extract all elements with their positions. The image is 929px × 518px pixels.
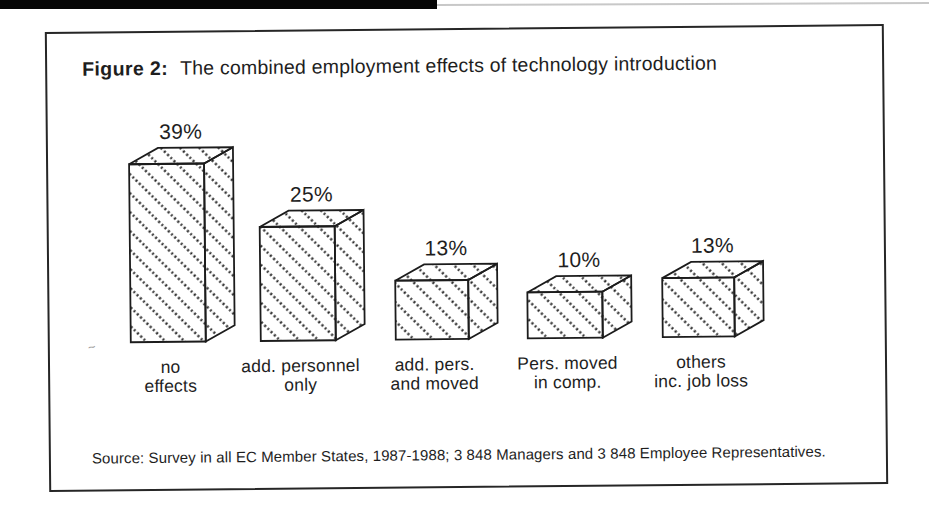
bar-value-label: 10% — [534, 247, 624, 272]
scanned-page: Figure 2:The combined employment effects… — [0, 0, 929, 518]
bar-others-inc-job-loss — [662, 261, 764, 337]
scan-edge-bar — [0, 0, 437, 9]
bar-category-label: add. personnel only — [225, 356, 375, 395]
bar-category-label: others inc. job loss — [626, 352, 776, 391]
bar-category-label: Pers. moved in comp. — [492, 353, 642, 392]
figure-frame: Figure 2:The combined employment effects… — [45, 24, 888, 492]
bar-no-effects — [129, 147, 235, 342]
bar-category-label: no effects — [95, 357, 245, 396]
bar-value-label: 13% — [667, 233, 757, 258]
bar-add-personnel-only — [260, 210, 365, 341]
bar-pers-moved-in-comp — [527, 275, 632, 338]
bar-value-label: 13% — [401, 236, 491, 261]
bar-value-label: 25% — [266, 182, 356, 207]
bar-add-pers-and-moved — [395, 264, 498, 340]
bar-category-label: add. pers. and moved — [359, 355, 509, 394]
bar-value-label: 39% — [136, 119, 226, 144]
scan-edge-line — [437, 2, 929, 6]
